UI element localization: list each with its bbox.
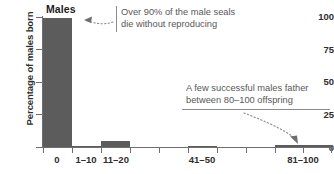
x-tick-label-41-50: 41–50	[189, 155, 215, 165]
chart-figure: Percentage of males born 100 75 50 25 0 …	[0, 0, 334, 174]
annotation-offspring: A few successful males father between 80…	[186, 83, 308, 106]
y-tick-50	[36, 82, 42, 83]
y-tick-label-100: 100	[300, 12, 334, 22]
x-tick-7	[246, 148, 247, 153]
annotation-offspring-arrow-head	[290, 136, 298, 145]
series-label-males: Males	[46, 3, 76, 15]
annotation-reproduction-line2: die without reproducing	[121, 19, 235, 31]
bar-0	[43, 18, 72, 147]
x-tick-4	[159, 148, 160, 153]
x-tick-8	[275, 148, 276, 153]
x-tick-9	[303, 148, 304, 153]
x-tick-2	[101, 148, 102, 153]
x-tick-label-1-10: 1–10	[75, 155, 96, 165]
annotation-reproduction-arrow-line	[85, 20, 113, 24]
annotation-reproduction-line1: Over 90% of the male seals	[121, 7, 235, 19]
annotation-offspring-rule	[182, 109, 330, 110]
x-tick-3	[130, 148, 131, 153]
x-tick-1	[72, 148, 73, 153]
annotation-reproduction-rule	[116, 6, 117, 32]
x-tick-6	[217, 148, 218, 153]
x-tick-0	[43, 148, 44, 153]
x-axis-line	[42, 147, 332, 148]
y-tick-25	[36, 114, 42, 115]
x-tick-10	[331, 148, 332, 153]
x-tick-label-81-100: 81–100	[287, 155, 319, 165]
annotation-reproduction: Over 90% of the male seals die without r…	[121, 7, 235, 30]
x-tick-label-11-20: 11–20	[103, 155, 129, 165]
annotation-offspring-arrow-line	[244, 113, 296, 139]
y-axis-label: Percentage of males born	[24, 0, 35, 144]
y-tick-label-75: 75	[300, 45, 334, 55]
annotation-offspring-line1: A few successful males father	[186, 83, 308, 95]
y-tick-75	[36, 49, 42, 50]
x-tick-5	[188, 148, 189, 153]
annotation-offspring-line2: between 80–100 offspring	[186, 95, 308, 107]
y-tick-100	[36, 17, 42, 18]
annotation-reproduction-arrow-head	[84, 17, 92, 24]
x-tick-label-0: 0	[54, 155, 59, 165]
y-tick-label-25: 25	[300, 110, 334, 120]
